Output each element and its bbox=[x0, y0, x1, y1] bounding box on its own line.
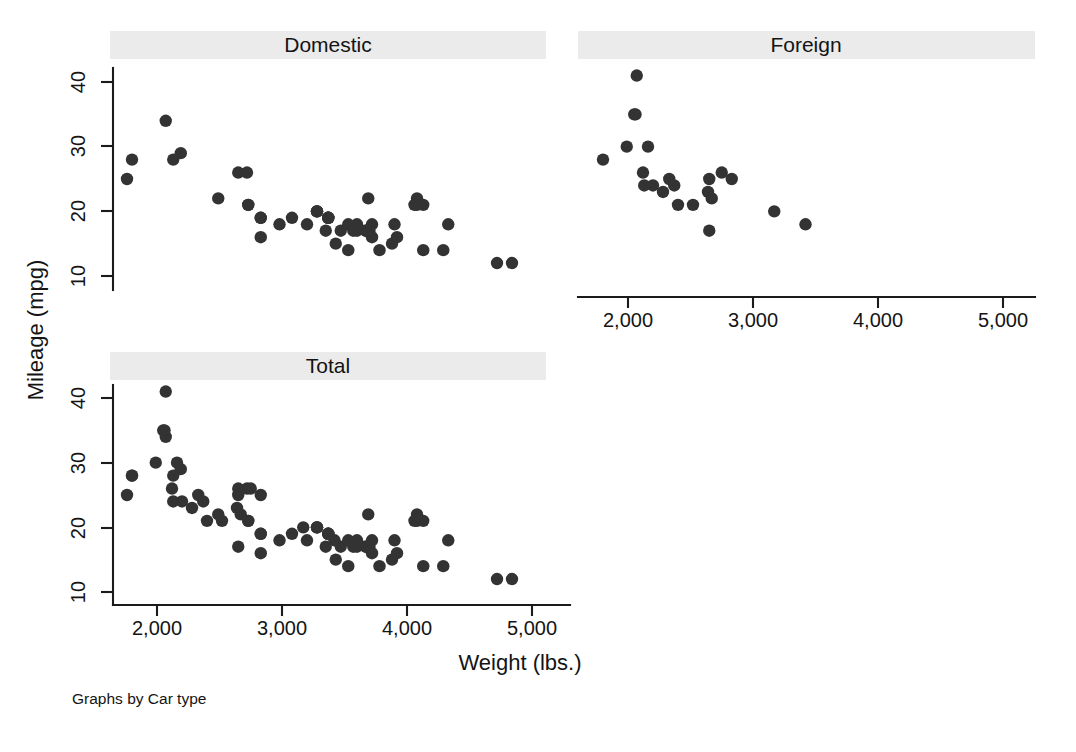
data-point bbox=[417, 244, 429, 256]
data-point bbox=[255, 212, 267, 224]
data-point bbox=[322, 212, 334, 224]
y-axis-title: Mileage (mpg) bbox=[23, 260, 48, 401]
graph-note: Graphs by Car type bbox=[72, 690, 206, 707]
y-tick-label-10: 10 bbox=[67, 265, 89, 287]
panel-total: Total 40 30 20 10 2, bbox=[67, 352, 570, 639]
y-tick-label-30-total: 30 bbox=[67, 452, 89, 474]
data-point bbox=[506, 257, 518, 269]
data-point bbox=[362, 508, 374, 520]
y-tick-label-10-total: 10 bbox=[67, 581, 89, 603]
data-point bbox=[311, 521, 323, 533]
panel-foreign-x-tick-labels: 2,000 3,000 4,000 5,000 bbox=[603, 309, 1028, 331]
x-tick-label-4000-total: 4,000 bbox=[382, 617, 432, 639]
data-point bbox=[330, 553, 342, 565]
data-point bbox=[126, 153, 138, 165]
data-point bbox=[706, 192, 718, 204]
data-point bbox=[255, 231, 267, 243]
y-tick-label-30: 30 bbox=[67, 135, 89, 157]
data-point bbox=[255, 547, 267, 559]
panel-foreign-title: Foreign bbox=[770, 33, 841, 56]
data-point bbox=[297, 521, 309, 533]
data-point bbox=[637, 166, 649, 178]
data-point bbox=[388, 534, 400, 546]
data-point bbox=[342, 244, 354, 256]
panel-domestic: Domestic 40 30 20 10 bbox=[67, 31, 546, 290]
data-point bbox=[391, 547, 403, 559]
data-point bbox=[232, 541, 244, 553]
data-point bbox=[437, 244, 449, 256]
data-point bbox=[366, 231, 378, 243]
data-point bbox=[157, 424, 169, 436]
data-point bbox=[232, 489, 244, 501]
x-tick-label-3000-total: 3,000 bbox=[257, 617, 307, 639]
data-point bbox=[506, 573, 518, 585]
data-point bbox=[687, 199, 699, 211]
data-point bbox=[642, 140, 654, 152]
data-point bbox=[342, 560, 354, 572]
y-tick-label-20: 20 bbox=[67, 200, 89, 222]
data-point bbox=[330, 237, 342, 249]
panel-total-x-ticks bbox=[157, 605, 532, 616]
data-point bbox=[286, 528, 298, 540]
data-point bbox=[437, 560, 449, 572]
panel-foreign: Foreign 2,000 3,000 4,000 5,000 bbox=[578, 31, 1035, 331]
panel-total-y-tick-labels: 40 30 20 10 bbox=[67, 387, 89, 603]
data-point bbox=[442, 218, 454, 230]
data-point bbox=[121, 489, 133, 501]
data-point bbox=[320, 225, 332, 237]
figure-canvas: Domestic 40 30 20 10 Foreign bbox=[0, 0, 1076, 752]
data-point bbox=[391, 231, 403, 243]
y-tick-label-20-total: 20 bbox=[67, 517, 89, 539]
data-point bbox=[663, 173, 675, 185]
data-point bbox=[388, 218, 400, 230]
panel-foreign-points bbox=[597, 69, 812, 237]
data-point bbox=[175, 147, 187, 159]
data-point bbox=[286, 212, 298, 224]
data-point bbox=[597, 153, 609, 165]
x-tick-label-3000-foreign: 3,000 bbox=[728, 309, 778, 331]
x-axis-title: Weight (lbs.) bbox=[458, 650, 581, 675]
data-point bbox=[672, 199, 684, 211]
data-point bbox=[638, 179, 650, 191]
x-tick-label-5000-total: 5,000 bbox=[507, 617, 557, 639]
x-tick-label-2000-total: 2,000 bbox=[132, 617, 182, 639]
data-point bbox=[491, 257, 503, 269]
x-tick-label-2000-foreign: 2,000 bbox=[603, 309, 653, 331]
data-point bbox=[408, 199, 420, 211]
panel-domestic-title: Domestic bbox=[284, 33, 372, 56]
panel-total-x-tick-labels: 2,000 3,000 4,000 5,000 bbox=[132, 617, 557, 639]
data-point bbox=[166, 482, 178, 494]
panel-total-title: Total bbox=[306, 354, 350, 377]
data-point bbox=[255, 528, 267, 540]
data-point bbox=[328, 534, 340, 546]
data-point bbox=[442, 534, 454, 546]
panel-total-y-ticks bbox=[101, 398, 113, 592]
data-point bbox=[201, 515, 213, 527]
data-point bbox=[301, 218, 313, 230]
data-point bbox=[703, 225, 715, 237]
data-point bbox=[491, 573, 503, 585]
data-point bbox=[417, 560, 429, 572]
data-point bbox=[241, 166, 253, 178]
data-point bbox=[631, 69, 643, 81]
data-point bbox=[768, 205, 780, 217]
data-point bbox=[192, 489, 204, 501]
panel-foreign-x-ticks bbox=[628, 297, 1003, 308]
panel-domestic-y-ticks bbox=[101, 82, 113, 276]
panel-domestic-y-tick-labels: 40 30 20 10 bbox=[67, 71, 89, 287]
data-point bbox=[373, 560, 385, 572]
panel-domestic-points bbox=[121, 115, 518, 270]
data-point bbox=[373, 244, 385, 256]
data-point bbox=[242, 199, 254, 211]
scatter-panel-figure: Domestic 40 30 20 10 Foreign bbox=[0, 0, 1076, 752]
data-point bbox=[212, 192, 224, 204]
data-point bbox=[311, 205, 323, 217]
data-point bbox=[621, 140, 633, 152]
data-point bbox=[362, 192, 374, 204]
data-point bbox=[216, 515, 228, 527]
data-point bbox=[408, 515, 420, 527]
data-point bbox=[347, 225, 359, 237]
data-point bbox=[366, 547, 378, 559]
data-point bbox=[150, 456, 162, 468]
y-tick-label-40-total: 40 bbox=[67, 387, 89, 409]
